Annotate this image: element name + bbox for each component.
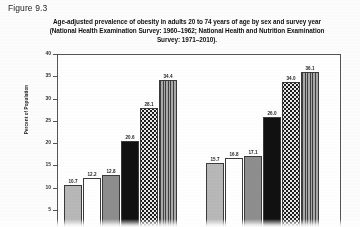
bar: 20.6 bbox=[121, 141, 139, 227]
figure-label: Figure 9.3 bbox=[8, 3, 47, 13]
y-axis-tick-label: 15 bbox=[45, 161, 51, 167]
bar-value-label: 34.0 bbox=[287, 76, 296, 81]
y-axis-tick-label: 25 bbox=[45, 117, 51, 123]
bar-value-label: 36.1 bbox=[306, 66, 315, 71]
figure-title-line-3: Survey: 1971–2010). bbox=[22, 35, 352, 44]
bar: 34.4 bbox=[159, 80, 177, 227]
y-axis-tick-label: 10 bbox=[45, 184, 51, 190]
bar: 10.7 bbox=[64, 185, 82, 227]
bar: 12.8 bbox=[102, 175, 120, 227]
bar-value-label: 28.1 bbox=[145, 102, 154, 107]
bar: 26.0 bbox=[263, 117, 281, 227]
bar-series-container: 10.712.212.820.628.134.415.716.817.126.0… bbox=[58, 55, 340, 227]
bar: 16.8 bbox=[225, 158, 243, 227]
bar-value-label: 15.7 bbox=[211, 157, 220, 162]
bar-chart: Percent of Population 510152025303540 10… bbox=[0, 47, 360, 227]
figure-title-line-1: Age-adjusted prevalence of obesity in ad… bbox=[22, 17, 352, 26]
y-axis-tick-label: 20 bbox=[45, 139, 51, 145]
bar: 17.1 bbox=[244, 156, 262, 227]
bar: 15.7 bbox=[206, 163, 224, 227]
y-axis-ticks: 510152025303540 bbox=[0, 54, 57, 227]
bar: 12.2 bbox=[83, 178, 101, 227]
figure-page: Figure 9.3 Age-adjusted prevalence of ob… bbox=[0, 0, 360, 227]
y-axis-tick-label: 30 bbox=[45, 95, 51, 101]
bar-value-label: 34.4 bbox=[164, 74, 173, 79]
bar-value-label: 16.8 bbox=[230, 152, 239, 157]
bar-value-label: 17.1 bbox=[249, 150, 258, 155]
bar-value-label: 20.6 bbox=[126, 135, 135, 140]
bar: 28.1 bbox=[140, 108, 158, 227]
figure-title-line-2: (National Health Examination Survey: 196… bbox=[22, 26, 352, 35]
bar: 36.1 bbox=[301, 72, 319, 227]
bar-group-men: 10.712.212.820.628.134.4 bbox=[64, 55, 178, 227]
bar-value-label: 26.0 bbox=[268, 111, 277, 116]
bar-group-women: 15.716.817.126.034.036.1 bbox=[206, 55, 320, 227]
figure-title: Age-adjusted prevalence of obesity in ad… bbox=[22, 17, 352, 44]
bar-value-label: 12.8 bbox=[107, 169, 116, 174]
bar-value-label: 12.2 bbox=[88, 172, 97, 177]
bar: 34.0 bbox=[282, 82, 300, 227]
y-axis-tick-label: 5 bbox=[48, 206, 51, 212]
y-axis-tick-label: 40 bbox=[45, 50, 51, 56]
y-axis-tick-label: 35 bbox=[45, 72, 51, 78]
bar-value-label: 10.7 bbox=[69, 179, 78, 184]
